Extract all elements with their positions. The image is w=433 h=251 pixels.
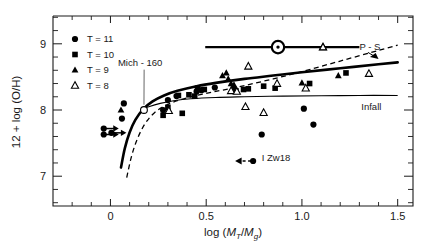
legend-item-t=10: T = 10 bbox=[72, 49, 114, 60]
x-tick-label: 1.0 bbox=[294, 210, 309, 222]
legend-item-t=11: T = 11 bbox=[72, 33, 113, 44]
svg-text:12 + log (O/H): 12 + log (O/H) bbox=[10, 76, 22, 149]
marker-filled-square bbox=[195, 85, 201, 91]
x-tick-label: 0 bbox=[107, 210, 113, 222]
series-sun bbox=[205, 41, 359, 53]
marker-filled-triangle bbox=[118, 106, 125, 112]
annotation-infall: Infall bbox=[361, 101, 381, 112]
marker-filled-square bbox=[186, 92, 192, 98]
legend-label: T = 11 bbox=[87, 33, 113, 44]
figure-container: 00.51.01.5 789 Mich - 160P - SInfallI Zw… bbox=[0, 0, 433, 251]
chart-annotations: Mich - 160P - SInfallI Zw18 bbox=[118, 41, 381, 163]
legend-label: T = 10 bbox=[87, 49, 114, 60]
marker-open-triangle bbox=[365, 70, 372, 77]
x-tick-label: 1.5 bbox=[390, 210, 405, 222]
marker-filled-square bbox=[179, 111, 185, 117]
marker-filled-circle bbox=[165, 97, 171, 103]
marker-filled-circle bbox=[121, 100, 127, 106]
x-tick-label: 0.5 bbox=[199, 210, 214, 222]
izw18-arrow-head bbox=[235, 157, 242, 164]
legend-marker-filled-triangle bbox=[72, 66, 79, 72]
y-tick-label: 8 bbox=[40, 104, 46, 116]
series-mich-160 bbox=[141, 107, 148, 114]
marker-filled-circle bbox=[259, 131, 265, 137]
marker-filled-square bbox=[261, 83, 267, 89]
legend-marker-filled-square bbox=[72, 52, 78, 58]
marker-filled-circle bbox=[119, 116, 125, 122]
marker-open-triangle bbox=[242, 103, 249, 110]
y-axis-tick-labels: 789 bbox=[40, 38, 46, 182]
svg-text:log (MT/Mg): log (MT/Mg) bbox=[204, 226, 262, 241]
marker-open-triangle bbox=[260, 109, 267, 116]
marker-filled-square bbox=[241, 87, 247, 93]
lower-limit-arrow-head bbox=[121, 130, 127, 136]
series-i-zw18 bbox=[235, 157, 256, 164]
marker-filled-square bbox=[192, 93, 198, 99]
x-axis-title: log (MT/Mg) bbox=[204, 226, 262, 241]
legend-marker-open-triangle bbox=[71, 82, 78, 89]
legend: T = 11T = 10T = 9T = 8 bbox=[71, 33, 114, 91]
chart-canvas: 00.51.01.5 789 Mich - 160P - SInfallI Zw… bbox=[0, 0, 433, 251]
legend-item-t=9: T = 9 bbox=[72, 64, 109, 75]
marker-filled-square bbox=[307, 81, 313, 87]
y-tick-label: 9 bbox=[40, 38, 46, 50]
marker-filled-circle bbox=[212, 84, 218, 90]
series-t-=-11 bbox=[119, 84, 317, 137]
marker-open-circle bbox=[141, 107, 148, 114]
marker-filled-square bbox=[201, 87, 207, 93]
marker-filled-square bbox=[246, 86, 252, 92]
annotation-mich-160: Mich - 160 bbox=[118, 57, 162, 68]
marker-filled-circle bbox=[301, 106, 307, 112]
legend-marker-filled-circle bbox=[72, 36, 78, 42]
marker-filled-square bbox=[343, 70, 349, 76]
legend-item-t=8: T = 8 bbox=[71, 80, 108, 91]
annotation-p-s: P - S bbox=[359, 41, 380, 52]
marker-filled-circle bbox=[310, 121, 316, 127]
y-axis-title: 12 + log (O/H) bbox=[10, 76, 22, 149]
x-axis-tick-labels: 00.51.01.5 bbox=[107, 210, 405, 222]
marker-filled-square bbox=[176, 93, 182, 99]
series-t-=-11-lower-limits bbox=[101, 125, 127, 137]
marker-open-triangle bbox=[273, 80, 280, 87]
annotation-i-zw18: I Zw18 bbox=[262, 152, 291, 163]
legend-label: T = 9 bbox=[87, 64, 109, 75]
marker-filled-triangle bbox=[335, 72, 342, 78]
marker-filled-triangle bbox=[225, 75, 232, 81]
y-tick-label: 7 bbox=[40, 170, 46, 182]
marker-filled-triangle bbox=[299, 79, 306, 85]
marker-open-triangle bbox=[245, 63, 252, 70]
lower-limit-arrow-head bbox=[113, 125, 119, 131]
sun-symbol-dot bbox=[276, 45, 279, 48]
legend-label: T = 8 bbox=[87, 80, 109, 91]
marker-filled-triangle bbox=[223, 69, 230, 75]
